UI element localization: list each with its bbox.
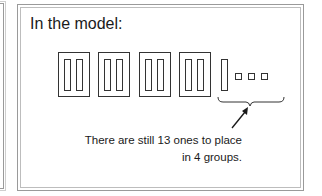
- arrow-icon: [232, 107, 248, 128]
- ten-bar: [222, 60, 228, 91]
- caption-line-2: in 4 groups.: [85, 149, 242, 166]
- place-value-model: [0, 0, 322, 196]
- caption-line-1: There are still 13 ones to place: [85, 132, 242, 149]
- tens-block: [180, 53, 211, 97]
- one-square: [249, 74, 255, 80]
- brace: [218, 97, 284, 106]
- tens-block: [99, 53, 130, 97]
- caption: There are still 13 ones to place in 4 gr…: [85, 132, 242, 166]
- tens-block: [59, 53, 90, 97]
- tens-block: [140, 53, 171, 97]
- one-square: [262, 74, 268, 80]
- one-square: [236, 74, 242, 80]
